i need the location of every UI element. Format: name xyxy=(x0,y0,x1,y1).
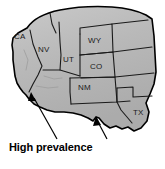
high-prevalence-caption: High prevalence xyxy=(9,141,92,153)
prevalence-map-figure: CA NV UT WY CO NM TX High prevalence xyxy=(0,0,165,169)
state-label-ca: CA xyxy=(14,33,26,41)
state-label-nm: NM xyxy=(78,84,91,92)
state-label-ut: UT xyxy=(63,56,74,64)
state-label-nv: NV xyxy=(38,46,50,54)
state-label-wy: WY xyxy=(88,37,101,45)
state-label-tx: TX xyxy=(133,109,144,117)
state-label-co: CO xyxy=(90,63,102,71)
